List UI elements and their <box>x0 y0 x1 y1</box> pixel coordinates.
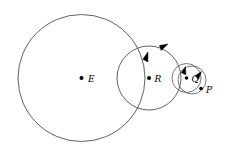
point-dot-Q <box>185 76 189 80</box>
point-dot-P <box>199 87 203 91</box>
point-dot-E <box>80 76 84 80</box>
point-dot-R <box>147 76 151 80</box>
arrow-on-epicycle-R-icon <box>142 51 150 62</box>
epicycle-figure: E R Q P <box>0 0 225 157</box>
epicycle-diagram-svg: E R Q P <box>0 0 225 157</box>
point-label-Q: Q <box>192 74 200 84</box>
point-label-E: E <box>87 74 95 84</box>
point-label-P: P <box>205 85 213 95</box>
arrow-on-deferent-E-icon <box>159 42 169 51</box>
point-label-R: R <box>154 74 162 84</box>
